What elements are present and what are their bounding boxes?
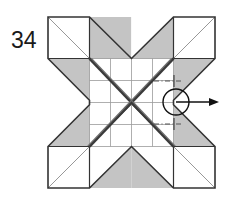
arrow-head (209, 98, 219, 106)
pull-direction-arrow (176, 98, 219, 106)
figure-container: 34 (0, 0, 229, 205)
crease-pattern-diagram (0, 0, 229, 205)
